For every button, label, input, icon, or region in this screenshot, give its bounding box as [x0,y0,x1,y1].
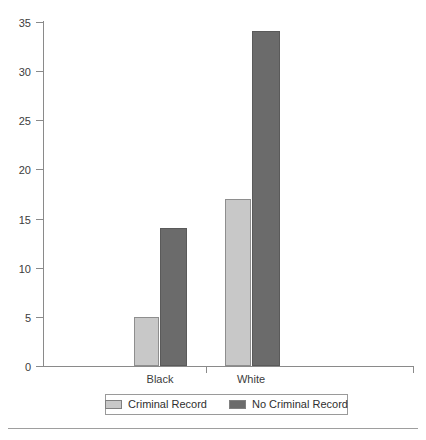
y-axis-tick: 15 [36,219,43,220]
y-axis-tick: 35 [36,22,43,23]
y-axis-tick-label: 35 [19,17,31,28]
y-axis-tick-label: 15 [19,214,31,225]
x-axis-group-label-white: White [237,373,265,386]
bar-black-criminal-record [134,317,159,366]
x-axis-group-label-black: Black [147,373,174,386]
legend-swatch-icon [105,400,122,409]
legend-swatch-icon [229,400,246,409]
y-axis-tick-label: 20 [19,164,31,175]
y-axis-tick-label: 10 [19,263,31,274]
x-axis-line [43,366,414,367]
legend-item-label: Criminal Record [128,399,207,410]
y-axis-tick: 0 [36,366,43,367]
legend-item-criminal-record: Criminal Record [105,399,207,410]
bar-white-criminal-record [225,199,251,366]
y-axis-tick: 25 [36,120,43,121]
bar-chart-figure: 35 30 25 20 15 10 5 0 Black White Crimin… [0,0,426,440]
legend-item-label: No Criminal Record [252,399,348,410]
bar-white-no-criminal-record [252,31,280,366]
y-axis-tick: 20 [36,169,43,170]
y-axis-tick: 10 [36,268,43,269]
chart-legend: Criminal Record No Criminal Record [105,394,348,415]
y-axis-tick-label: 0 [25,361,31,372]
legend-item-no-criminal-record: No Criminal Record [229,399,348,410]
x-axis-tick [206,367,207,373]
y-axis-tick: 5 [36,317,43,318]
y-axis-tick-label: 30 [19,66,31,77]
y-axis-tick-label: 5 [25,312,31,323]
bars-layer [43,22,414,366]
y-axis-tick: 30 [36,71,43,72]
bar-black-no-criminal-record [160,228,187,366]
bottom-divider [8,428,418,429]
y-axis-tick-label: 25 [19,115,31,126]
x-axis-tick [413,367,414,373]
